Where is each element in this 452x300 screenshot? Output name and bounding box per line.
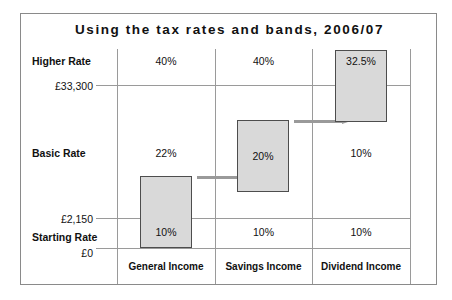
cell-dividend-starting: 10% [312,226,410,238]
column-header-savings-income: Savings Income [215,261,312,272]
box-label-general-income: 10% [140,226,192,238]
cell-general-basic: 22% [117,147,215,159]
grid-hline-zero [96,248,410,249]
band-label-starting-rate: Starting Rate [32,231,97,243]
cell-savings-starting: 10% [215,226,312,238]
y-threshold-33300: £33,300 [21,80,93,92]
box-label-dividend-income: 32.5% [335,55,387,67]
box-label-savings-income: 20% [237,150,289,162]
column-header-dividend-income: Dividend Income [312,261,410,272]
column-header-general-income: General Income [117,261,215,272]
cell-general-higher: 40% [117,55,215,67]
y-threshold-zero: £0 [21,247,93,259]
band-label-higher-rate: Higher Rate [32,55,91,67]
band-label-basic-rate: Basic Rate [32,147,86,159]
chart-title: Using the tax rates and bands, 2006/07 [21,22,438,37]
grid-vline-4 [410,49,411,284]
chart-figure: Using the tax rates and bands, 2006/07 £… [20,13,437,285]
cell-savings-higher: 40% [215,55,312,67]
y-threshold-2150: £2,150 [21,213,93,225]
cell-dividend-basic: 10% [312,147,410,159]
